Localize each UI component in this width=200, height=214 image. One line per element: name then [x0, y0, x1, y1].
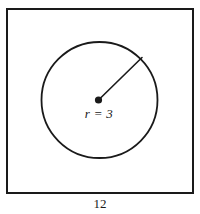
- radius-label: r = 3: [0, 106, 199, 121]
- circle-center-point: [95, 96, 102, 103]
- geometry-figure: r = 3 12: [0, 0, 200, 214]
- bottom-dimension-label: 12: [0, 197, 200, 211]
